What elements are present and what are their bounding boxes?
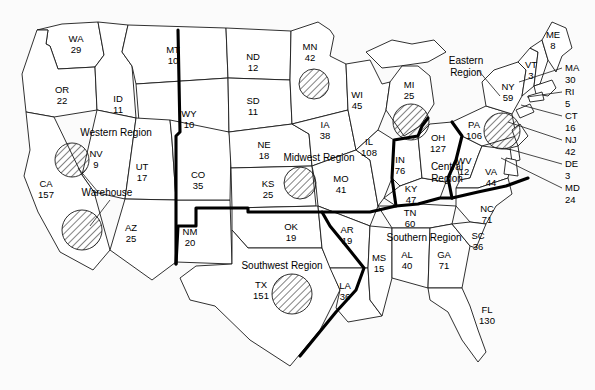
state-label-ms[interactable]: MS15 <box>372 252 386 274</box>
state-label-sd[interactable]: SD11 <box>246 95 259 117</box>
state-abbr: MO <box>333 173 348 184</box>
state-label-la[interactable]: LA36 <box>339 280 351 302</box>
state-label-ar[interactable]: AR19 <box>340 224 353 246</box>
region-label-southwest[interactable]: Southwest Region <box>241 260 322 271</box>
state-label-in[interactable]: IN76 <box>395 154 406 176</box>
state-value: 41 <box>336 184 347 195</box>
state-abbr: GA <box>437 249 451 260</box>
state-value: 11 <box>113 104 123 115</box>
state-label-ca[interactable]: CA157 <box>38 178 54 200</box>
state-abbr: IN <box>395 154 405 165</box>
state-label-mn[interactable]: MN42 <box>303 41 318 63</box>
state-label-ia[interactable]: IA38 <box>320 119 331 141</box>
state-value: 11 <box>248 106 258 117</box>
state-value: 25 <box>263 189 274 200</box>
state-value: 25 <box>404 90 415 101</box>
region-label-line2: Region <box>450 67 482 78</box>
state-abbr: ME <box>546 29 560 40</box>
state-label-wi[interactable]: WI45 <box>351 89 363 111</box>
side-state-label-nj[interactable]: NJ42 <box>565 134 577 157</box>
side-state-label-md[interactable]: MD24 <box>565 182 580 205</box>
state-label-ne[interactable]: NE18 <box>257 139 270 161</box>
warehouse-marker[interactable] <box>284 167 316 199</box>
state-abbr: NC <box>480 203 494 214</box>
state-abbr: ND <box>246 51 260 62</box>
side-state-labels: MA30RI5CT16NJ42DE3MD24 <box>565 62 580 205</box>
state-label-al[interactable]: AL40 <box>401 249 413 271</box>
state-value: 45 <box>352 100 363 111</box>
side-state-abbr: DE <box>565 158 578 169</box>
state-abbr: VA <box>485 166 498 177</box>
state-value: 38 <box>320 130 331 141</box>
state-abbr: KS <box>262 178 275 189</box>
state-value: 59 <box>503 92 514 103</box>
state-label-ut[interactable]: UT17 <box>136 161 149 183</box>
warehouse-marker[interactable] <box>62 210 102 250</box>
warehouse-marker[interactable] <box>484 113 520 149</box>
state-label-mt[interactable]: MT10 <box>166 44 180 66</box>
state-abbr: SC <box>471 230 484 241</box>
side-state-value: 16 <box>565 122 576 133</box>
state-value: 40 <box>402 260 413 271</box>
warehouse-marker[interactable] <box>299 69 329 99</box>
state-abbr: NV <box>89 148 103 159</box>
state-label-oh[interactable]: OH127 <box>430 132 446 154</box>
state-abbr: WA <box>69 33 85 44</box>
state-abbr: AZ <box>125 222 137 233</box>
warehouse-text-label: Warehouse <box>82 187 133 198</box>
side-state-label-ri[interactable]: RI5 <box>565 86 575 109</box>
side-state-value: 42 <box>565 146 576 157</box>
region-label-central[interactable]: CentralRegion <box>431 161 463 184</box>
state-label-pa[interactable]: PA106 <box>466 119 482 141</box>
side-state-value: 5 <box>565 98 570 109</box>
region-label-southern[interactable]: Southern Region <box>386 232 461 243</box>
state-value: 44 <box>486 177 497 188</box>
region-label-eastern[interactable]: EasternRegion <box>449 55 483 78</box>
state-value: 130 <box>479 315 495 326</box>
region-label-western[interactable]: Western Region <box>80 127 152 138</box>
state-label-ny[interactable]: NY59 <box>501 81 515 103</box>
state-label-az[interactable]: AZ25 <box>125 222 137 244</box>
state-abbr: KY <box>405 183 418 194</box>
state-value: 157 <box>38 189 54 200</box>
warehouse-marker[interactable] <box>272 274 312 314</box>
state-abbr: UT <box>136 161 149 172</box>
state-value: 19 <box>342 235 353 246</box>
state-label-tx[interactable]: TX151 <box>253 279 269 301</box>
warehouse-label: Warehouse <box>82 187 133 198</box>
state-value: 151 <box>253 290 269 301</box>
state-abbr: WY <box>181 108 197 119</box>
side-state-abbr: RI <box>565 86 575 97</box>
state-label-nm[interactable]: NM20 <box>183 226 198 248</box>
state-label-id[interactable]: ID11 <box>113 93 123 115</box>
state-abbr: LA <box>339 280 351 291</box>
state-value: 10 <box>168 55 179 66</box>
warehouse-marker[interactable] <box>55 143 89 177</box>
state-label-or[interactable]: OR22 <box>55 84 69 106</box>
state-label-fl[interactable]: FL130 <box>479 304 495 326</box>
state-value: 36 <box>340 291 351 302</box>
state-value: 76 <box>395 165 406 176</box>
side-state-label-de[interactable]: DE3 <box>565 158 578 181</box>
state-value: 127 <box>430 143 446 154</box>
state-abbr: IA <box>321 119 331 130</box>
state-label-mi[interactable]: MI25 <box>404 79 415 101</box>
state-abbr: IL <box>365 136 373 147</box>
state-label-ks[interactable]: KS25 <box>262 178 275 200</box>
side-state-abbr: MD <box>565 182 580 193</box>
side-state-label-ct[interactable]: CT16 <box>565 110 578 133</box>
side-state-label-ma[interactable]: MA30 <box>565 62 580 85</box>
state-label-va[interactable]: VA44 <box>485 166 498 188</box>
state-abbr: TN <box>404 207 417 218</box>
state-label-ky[interactable]: KY47 <box>405 183 418 205</box>
side-state-abbr: NJ <box>565 134 577 145</box>
state-label-sc[interactable]: SC36 <box>471 230 484 252</box>
state-label-nc[interactable]: NC71 <box>480 203 494 225</box>
map-svg: WA29OR22ID11MT10WY10NV9UT17CA157AZ25NM20… <box>0 0 595 390</box>
state-label-co[interactable]: CO35 <box>191 169 205 191</box>
state-label-nd[interactable]: ND12 <box>246 51 260 73</box>
region-label-line2: Region <box>431 173 463 184</box>
region-label-midwest[interactable]: Midwest Region <box>283 152 354 163</box>
state-label-tn[interactable]: TN60 <box>404 207 417 229</box>
state-value: 47 <box>406 194 417 205</box>
